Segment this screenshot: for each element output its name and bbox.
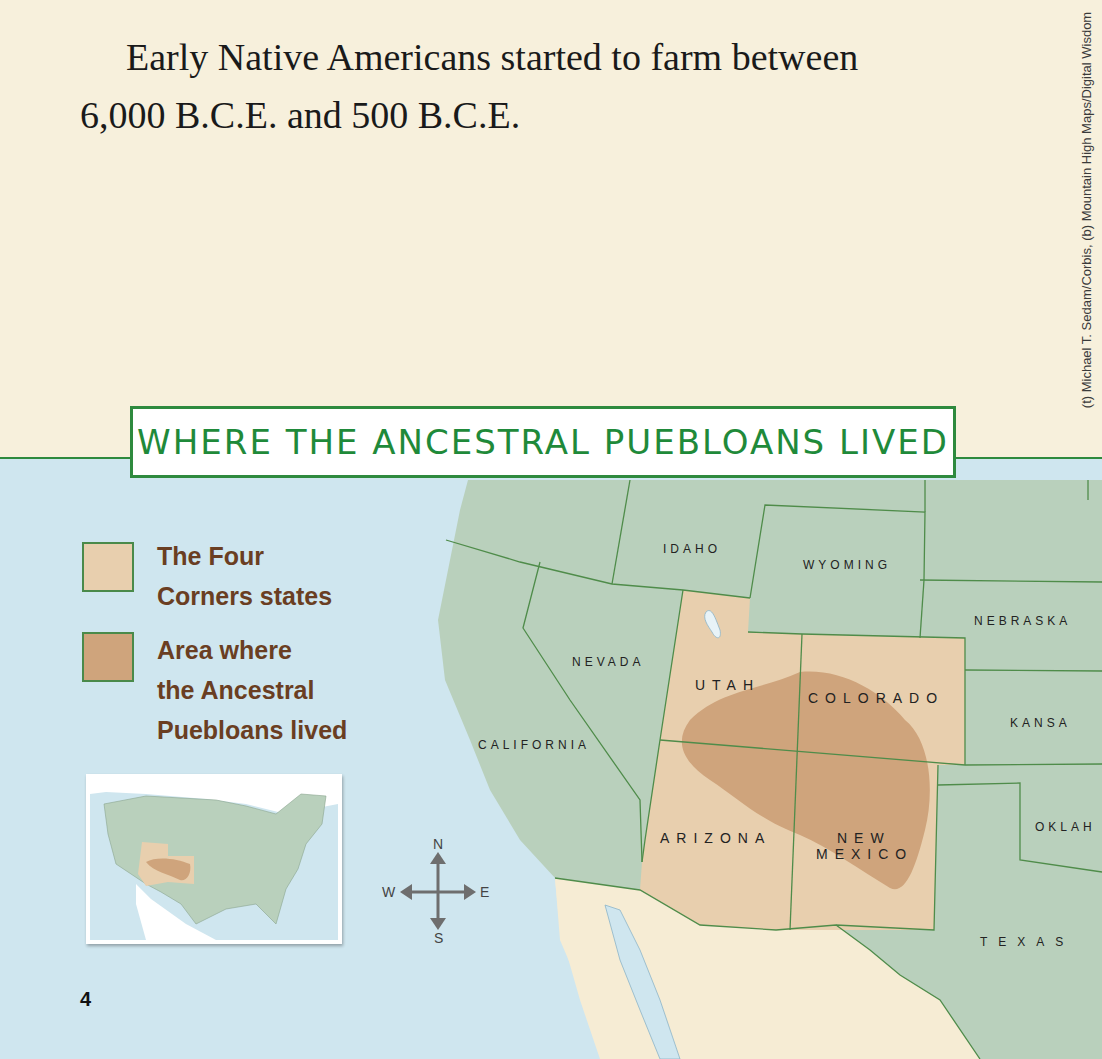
compass-south: S	[434, 930, 443, 946]
compass-west: W	[382, 884, 395, 900]
photo-credit-text: (t) Michael T. Sedam/Corbis, (b) Mountai…	[1079, 12, 1094, 408]
body-text-line-1: Early Native Americans started to farm b…	[126, 36, 858, 78]
body-paragraph: Early Native Americans started to farm b…	[80, 28, 1040, 144]
title-rule-left	[0, 457, 130, 459]
state-label-oklahoma: OKLAH	[1035, 820, 1096, 834]
state-label-new-mexico-2: MEXICO	[816, 846, 913, 862]
state-label-texas: TEXAS	[980, 935, 1074, 949]
state-label-kansas: KANSA	[1010, 716, 1071, 730]
legend-label-puebloan-area: Area where the Ancestral Puebloans lived	[157, 630, 347, 750]
compass-east: E	[480, 884, 489, 900]
state-label-california: CALIFORNIA	[478, 738, 590, 752]
map-title-box: WHERE THE ANCESTRAL PUEBLOANS LIVED	[130, 406, 956, 478]
legend-label-four-corners: The Four Corners states	[157, 536, 332, 616]
us-locator-map	[86, 774, 342, 944]
state-label-nebraska: NEBRASKA	[974, 614, 1071, 628]
compass-north: N	[433, 836, 443, 852]
state-label-new-mexico-1: NEW	[837, 830, 891, 846]
state-label-idaho: IDAHO	[663, 542, 721, 556]
photo-credit: (t) Michael T. Sedam/Corbis, (b) Mountai…	[1074, 0, 1098, 420]
state-label-utah: UTAH	[695, 677, 760, 693]
body-text-line-2: 6,000 B.C.E. and 500 B.C.E.	[80, 94, 520, 136]
puebloan-area-swatch	[82, 632, 134, 682]
state-label-wyoming: WYOMING	[803, 558, 891, 572]
inset-us-map	[86, 774, 342, 944]
page-number: 4	[80, 988, 91, 1011]
compass-rose: N S W E	[380, 836, 490, 946]
map-title: WHERE THE ANCESTRAL PUEBLOANS LIVED	[137, 422, 949, 462]
legend-puebloan-area: Area where the Ancestral Puebloans lived	[82, 632, 134, 682]
title-rule-right	[956, 457, 1102, 459]
legend-four-corners: The Four Corners states	[82, 542, 134, 592]
four-corners-swatch	[82, 542, 134, 592]
state-label-colorado: COLORADO	[808, 690, 944, 706]
state-label-nevada: NEVADA	[572, 655, 644, 669]
state-label-arizona: ARIZONA	[660, 830, 771, 846]
